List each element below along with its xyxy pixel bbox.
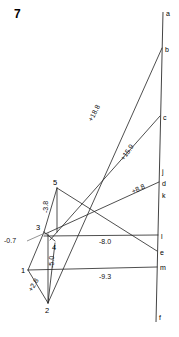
node-label-1: 1 — [21, 266, 25, 275]
member-3-l — [44, 235, 158, 236]
force-label-2-8: +2.8 — [27, 277, 40, 293]
force-label-neg-0-7: -0.7 — [4, 237, 16, 244]
force-label-18-8: +18.8 — [87, 103, 102, 122]
force-label-neg-8-0: -8.0 — [99, 238, 111, 245]
node-label-4: 4 — [52, 243, 56, 252]
force-label-neg-5-0: -5.0 — [48, 256, 55, 268]
point-label-b: b — [165, 46, 169, 53]
point-label-e: e — [160, 249, 164, 256]
point-label-f: f — [159, 314, 161, 321]
point-label-d: d — [162, 180, 166, 187]
point-label-j: j — [161, 168, 164, 176]
figure-container: 7 1 2 3 — [0, 0, 179, 337]
point-label-l: l — [161, 233, 163, 240]
node-label-3: 3 — [36, 223, 40, 232]
point-label-a: a — [166, 10, 170, 17]
member-2-b — [48, 48, 162, 303]
force-label-neg-3-8: -3.8 — [42, 201, 49, 213]
force-label-neg-9-3: -9.3 — [99, 273, 111, 280]
node-label-2: 2 — [45, 306, 49, 315]
point-label-k: k — [162, 192, 166, 199]
point-label-c: c — [163, 114, 167, 121]
member-1-3 — [28, 232, 44, 270]
force-diagram: 1 2 3 4 5 a b c j d k l e m f +18.8 +15.… — [0, 0, 179, 337]
force-label-15-9: +15.9 — [119, 143, 135, 162]
node-label-5: 5 — [53, 178, 57, 187]
member-2-4 — [48, 243, 55, 303]
point-label-m: m — [160, 264, 166, 271]
force-label-8-8: +8.8 — [130, 183, 146, 195]
member-4-c — [50, 116, 160, 240]
